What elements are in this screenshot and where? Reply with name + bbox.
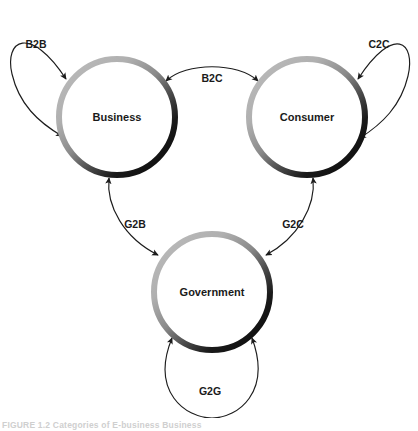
business-label: Business bbox=[93, 111, 142, 123]
edge-b2c: B2C bbox=[166, 67, 258, 84]
edge-c2c-label: C2C bbox=[368, 38, 389, 50]
edge-g2b-path bbox=[109, 178, 158, 255]
consumer-label: Consumer bbox=[280, 111, 335, 123]
edge-b2c-label: B2C bbox=[201, 72, 222, 84]
edge-g2c-label: G2C bbox=[282, 218, 304, 230]
edge-b2b-label: B2B bbox=[25, 38, 46, 50]
node-consumer[interactable]: Consumer bbox=[249, 59, 365, 175]
edge-g2b-label: G2B bbox=[124, 218, 146, 230]
ebusiness-categories-diagram: B2B C2C G2G B2C G2B G2C Business bbox=[0, 0, 418, 418]
edge-g2b: G2B bbox=[109, 178, 158, 255]
node-business[interactable]: Business bbox=[59, 59, 175, 175]
node-government[interactable]: Government bbox=[154, 234, 270, 350]
edge-g2g-label: G2G bbox=[199, 385, 221, 397]
edge-g2c-path bbox=[266, 178, 313, 255]
figure-caption: FIGURE 1.2 Categories of E-business Busi… bbox=[2, 419, 416, 431]
edge-g2c: G2C bbox=[266, 178, 313, 255]
diagram-canvas: B2B C2C G2G B2C G2B G2C Business bbox=[0, 0, 418, 418]
government-label: Government bbox=[180, 286, 245, 298]
